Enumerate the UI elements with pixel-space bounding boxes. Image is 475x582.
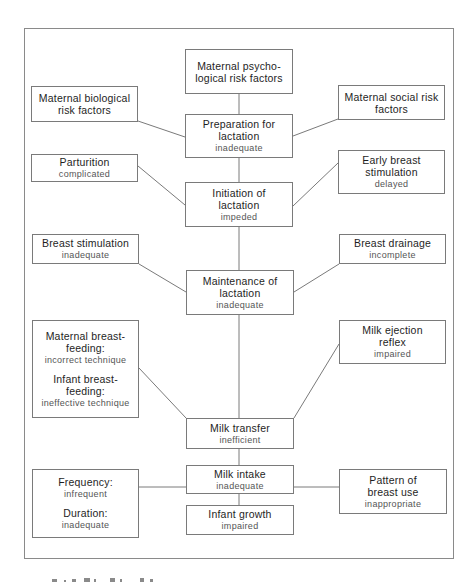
node-infant-growth: Infant growth impaired [186, 505, 294, 535]
node-milk-transfer: Milk transfer inefficient [186, 418, 294, 449]
node-status: inadequate [62, 249, 110, 261]
node-status: incomplete [369, 249, 416, 261]
node-milk-ejection-reflex: Milk ejection reflex impaired [339, 320, 446, 364]
node-status: inadequate [216, 299, 264, 311]
maternal-breastfeeding-title: Maternal breast-feeding: [46, 330, 126, 354]
node-maternal-biological-risk: Maternal biological risk factors [31, 86, 138, 122]
infant-breastfeeding-title: Infant breast-feeding: [51, 373, 121, 397]
node-title: Maternal biological risk factors [35, 92, 134, 116]
node-title: Breast stimulation [42, 237, 129, 249]
duration-status: inadequate [62, 519, 110, 531]
node-status: inappropriate [365, 498, 421, 510]
node-preparation-for-lactation: Preparation for lactation inadequate [185, 114, 293, 158]
node-title: Preparation for lactation [189, 118, 289, 142]
node-status: impaired [374, 348, 411, 360]
node-title: Milk intake [214, 468, 266, 480]
node-breast-stimulation: Breast stimulation inadequate [32, 234, 139, 264]
node-maintenance-of-lactation: Maintenance of lactation inadequate [186, 270, 294, 315]
node-maternal-social-risk: Maternal social risk factors [338, 85, 445, 120]
duration-title: Duration: [63, 507, 107, 519]
node-pattern-of-breast-use: Pattern of breast use inappropriate [339, 469, 447, 514]
node-title: Early breast stimulation [352, 154, 432, 178]
node-title: Parturition [59, 156, 109, 168]
node-title: Milk transfer [210, 422, 270, 434]
node-title: Pattern of breast use [358, 474, 428, 498]
infant-breastfeeding-status: ineffective technique [41, 397, 129, 409]
node-title: Initiation of lactation [204, 187, 274, 211]
node-status: delayed [375, 178, 409, 190]
node-initiation-of-lactation: Initiation of lactation impeded [185, 182, 293, 227]
caption-fragment [50, 576, 230, 582]
node-maternal-psychological-risk: Maternal psycho-logical risk factors [185, 49, 293, 94]
node-title: Maternal social risk factors [342, 91, 441, 115]
node-status: inadequate [216, 480, 264, 492]
node-status: complicated [59, 168, 110, 180]
node-frequency-duration: Frequency: infrequent Duration: inadequa… [32, 469, 139, 538]
frequency-status: infrequent [64, 488, 107, 500]
node-parturition: Parturition complicated [31, 154, 138, 182]
node-milk-intake: Milk intake inadequate [186, 465, 294, 494]
node-title: Milk ejection reflex [358, 324, 428, 348]
frequency-title: Frequency: [58, 476, 113, 488]
node-title: Breast drainage [354, 237, 431, 249]
node-early-breast-stimulation: Early breast stimulation delayed [338, 150, 445, 194]
node-title: Maintenance of lactation [200, 275, 280, 299]
node-title: Maternal psycho-logical risk factors [189, 60, 289, 84]
node-status: inadequate [215, 142, 263, 154]
node-title: Infant growth [208, 508, 271, 520]
node-status: impaired [222, 520, 259, 532]
node-status: impeded [221, 211, 258, 223]
node-status: inefficient [219, 434, 260, 446]
node-breast-drainage: Breast drainage incomplete [339, 234, 446, 264]
maternal-breastfeeding-status: incorrect technique [45, 354, 127, 366]
node-breast-feeding-technique: Maternal breast-feeding: incorrect techn… [32, 320, 139, 418]
